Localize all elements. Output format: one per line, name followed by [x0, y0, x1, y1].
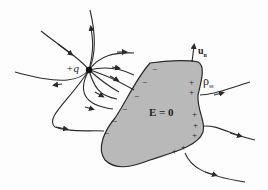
- field-inside-label: E = 0: [149, 107, 174, 118]
- field-line-to-conductor-1: [89, 70, 119, 92]
- surface-charge-sub: ss: [209, 83, 214, 89]
- field-line-to-conductor-4: [52, 70, 104, 131]
- positive-charge: +: [189, 88, 194, 97]
- negative-charge: −: [142, 78, 147, 87]
- negative-charge: −: [134, 92, 139, 101]
- field-line-out-right-2: [203, 126, 255, 140]
- field-line-right-upper: [89, 53, 134, 70]
- positive-charge: +: [172, 147, 177, 156]
- positive-charge: +: [193, 121, 198, 130]
- positive-charge: +: [189, 78, 194, 87]
- normal-vector: [192, 46, 194, 62]
- field-line-out-bottom: [185, 153, 245, 182]
- field-line-up: [89, 10, 94, 70]
- field-line-upper-left: [41, 31, 89, 70]
- normal-label-sub: n: [204, 52, 207, 58]
- positive-charge: +: [192, 110, 197, 119]
- negative-charge: −: [112, 117, 117, 126]
- negative-charge: −: [122, 105, 127, 114]
- normal-label: un: [198, 46, 207, 58]
- positive-charge: +: [181, 143, 186, 152]
- negative-charge: −: [104, 129, 109, 138]
- diagram-canvas: +q E = 0 un ρss − − − − − − + + + + + + …: [0, 0, 268, 190]
- negative-charge: −: [152, 65, 157, 74]
- point-charge: [86, 67, 92, 73]
- charge-label: +q: [66, 63, 79, 74]
- surface-charge-label: ρss: [203, 75, 214, 89]
- positive-charge: +: [192, 131, 197, 140]
